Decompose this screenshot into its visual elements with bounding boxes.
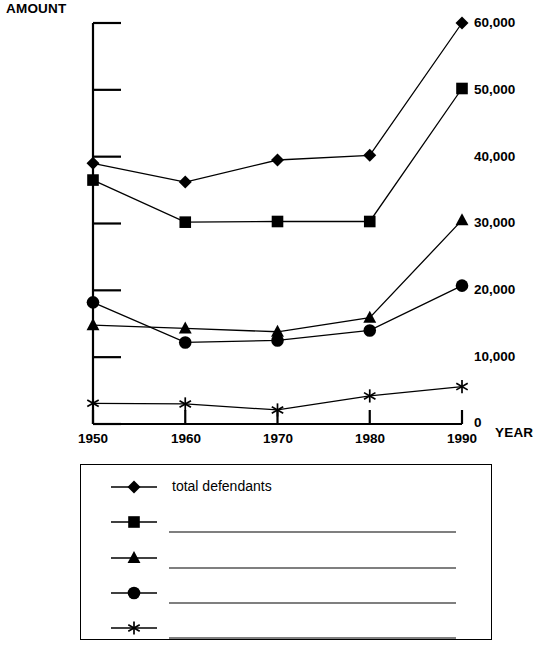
legend-entry-circle <box>111 587 456 603</box>
data-series-layer <box>87 17 469 417</box>
legend-entry-diamond <box>111 481 157 494</box>
series-asterisk <box>87 380 467 417</box>
legend-label-0: total defendants <box>172 478 272 494</box>
chart-container: AMOUNT YEAR 60,000 50,000 40,000 30,000 … <box>0 0 548 655</box>
y-axis-ticks <box>93 23 121 424</box>
legend-entry-square <box>111 516 456 532</box>
legend-entry-asterisk <box>111 621 456 638</box>
series-circle <box>87 279 469 348</box>
plot-area <box>0 0 548 460</box>
legend-entry-triangle <box>111 551 456 568</box>
legend: total defendants <box>80 464 492 640</box>
legend-markers <box>81 465 493 641</box>
series-triangle <box>87 213 469 337</box>
